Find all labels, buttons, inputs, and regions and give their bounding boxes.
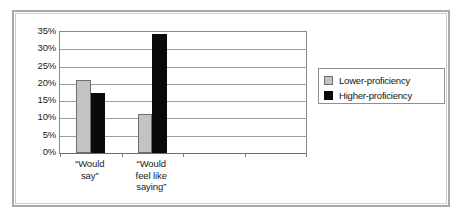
legend-label: Higher-proficiency (339, 90, 412, 101)
bar-higher-proficiency (152, 34, 167, 153)
legend-label: Lower-proficiency (339, 75, 410, 86)
x-axis-tick (122, 153, 123, 157)
y-axis-tick-label: 25% (38, 61, 56, 71)
legend-swatch-higher-proficiency (324, 91, 333, 100)
x-axis-category-labels: “Would say”“Would feel like saying” (59, 158, 305, 204)
chart-figure: 0%5%10%15%20%25%30%35% “Would say”“Would… (0, 0, 463, 222)
x-axis-tick (306, 153, 307, 157)
x-axis-category-label: “Would feel like saying” (111, 158, 191, 193)
y-axis-tick-labels: 0%5%10%15%20%25%30%35% (18, 31, 56, 152)
x-axis-tick (60, 153, 61, 157)
legend-item: Higher-proficiency (324, 88, 439, 103)
gridline (60, 49, 306, 50)
legend-item: Lower-proficiency (324, 73, 439, 88)
bar-higher-proficiency (91, 93, 106, 153)
y-axis-tick-label: 10% (38, 112, 56, 122)
plot-area (59, 31, 307, 154)
chart-legend: Lower-proficiency Higher-proficiency (318, 68, 445, 104)
y-axis-tick-label: 35% (38, 26, 56, 36)
y-axis-tick-label: 15% (38, 95, 56, 105)
x-axis-tick (183, 153, 184, 157)
y-axis-tick-label: 30% (38, 43, 56, 53)
x-axis-tick (245, 153, 246, 157)
gridline (60, 67, 306, 68)
bar-lower-proficiency (76, 80, 91, 153)
bar-lower-proficiency (138, 114, 153, 153)
y-axis-tick-label: 20% (38, 78, 56, 88)
y-axis-tick-label: 0% (43, 147, 56, 157)
legend-swatch-lower-proficiency (324, 76, 333, 85)
y-axis-tick-label: 5% (43, 130, 56, 140)
gridline (60, 84, 306, 85)
